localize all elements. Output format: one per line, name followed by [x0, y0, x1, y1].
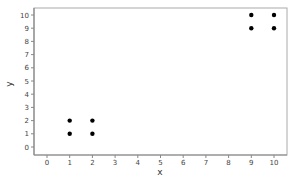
x-tick-label: 7: [204, 159, 208, 167]
x-tick-label: 2: [90, 159, 94, 167]
y-tick-label: 0: [25, 144, 29, 152]
data-point: [90, 118, 94, 122]
x-tick-label: 9: [249, 159, 253, 167]
y-tick-label: 4: [25, 91, 30, 99]
x-tick-label: 5: [158, 159, 162, 167]
scatter-chart: 012345678910 012345678910 x y: [0, 0, 306, 180]
x-tick-label: 0: [45, 159, 49, 167]
y-tick-label: 6: [25, 64, 30, 72]
y-tick-label: 7: [25, 51, 29, 59]
x-tick-label: 4: [136, 159, 141, 167]
plot-frame: [34, 8, 287, 155]
y-tick-label: 8: [25, 38, 29, 46]
y-tick-label: 10: [20, 12, 29, 20]
data-point: [68, 132, 72, 136]
x-tick-label: 8: [226, 159, 230, 167]
data-point: [90, 132, 94, 136]
data-point: [272, 13, 276, 17]
x-tick-label: 1: [67, 159, 71, 167]
data-point: [249, 26, 253, 30]
y-axis-label: y: [4, 81, 14, 87]
data-point: [272, 26, 276, 30]
y-axis-ticks: 012345678910: [20, 12, 34, 152]
y-tick-label: 5: [25, 78, 29, 86]
y-tick-label: 2: [25, 117, 29, 125]
data-points: [68, 13, 277, 136]
data-point: [249, 13, 253, 17]
y-tick-label: 3: [25, 104, 29, 112]
data-point: [68, 118, 72, 122]
x-axis-ticks: 012345678910: [45, 155, 279, 167]
x-tick-label: 6: [181, 159, 186, 167]
y-tick-label: 9: [25, 25, 29, 33]
y-tick-label: 1: [25, 130, 29, 138]
x-tick-label: 3: [113, 159, 117, 167]
x-tick-label: 10: [270, 159, 279, 167]
x-axis-label: x: [157, 167, 163, 177]
